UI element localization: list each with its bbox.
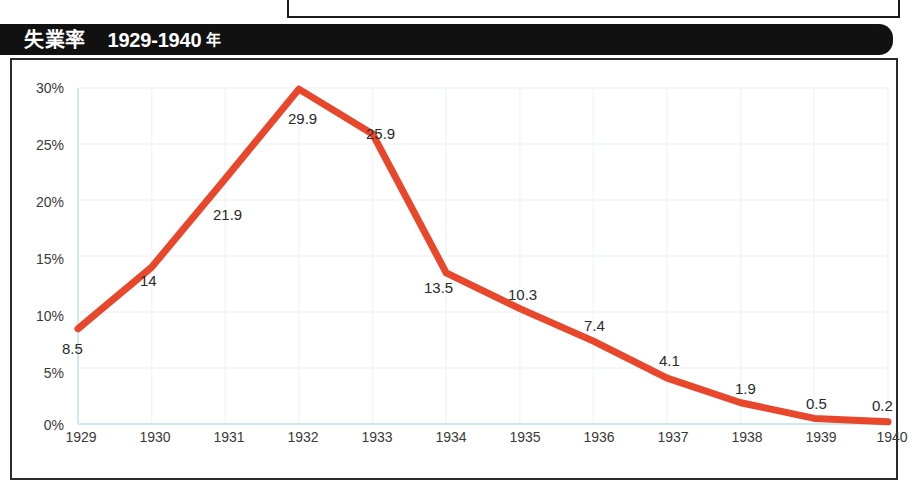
y-axis-tick-label: 20% <box>18 195 64 209</box>
x-axis-tick-label: 1940 <box>862 430 918 444</box>
x-axis-tick-label: 1938 <box>717 430 777 444</box>
x-axis-tick-label: 1937 <box>643 430 703 444</box>
x-axis-tick-label: 1934 <box>421 430 481 444</box>
data-point-label: 1.9 <box>735 381 756 396</box>
data-point-label: 0.2 <box>872 398 893 413</box>
y-axis-tick-label: 15% <box>18 252 64 266</box>
y-axis-tick-label: 25% <box>18 138 64 152</box>
chart-panel <box>10 58 898 480</box>
x-axis-tick-label: 1933 <box>347 430 407 444</box>
data-point-label: 4.1 <box>659 353 680 368</box>
y-axis-tick-label: 5% <box>18 366 64 380</box>
x-axis-tick-label: 1931 <box>199 430 259 444</box>
data-point-label: 8.5 <box>62 341 83 356</box>
data-point-label: 14 <box>140 273 157 288</box>
x-axis-tick-label: 1932 <box>273 430 333 444</box>
x-axis-tick-label: 1929 <box>51 430 111 444</box>
data-point-label: 21.9 <box>213 207 242 222</box>
title-year-range: 1929-1940 <box>108 30 202 50</box>
top-partial-frame <box>287 0 900 18</box>
data-point-label: 29.9 <box>288 111 317 126</box>
y-axis-tick-label: 30% <box>18 81 64 95</box>
title-year-suffix: 年 <box>206 32 221 47</box>
x-axis-tick-label: 1936 <box>569 430 629 444</box>
data-point-label: 7.4 <box>584 318 605 333</box>
data-point-label: 25.9 <box>366 126 395 141</box>
chart-title-bar: 失業率 1929-1940 年 <box>0 24 893 55</box>
x-axis-tick-label: 1939 <box>791 430 851 444</box>
page-title: 失業率 <box>24 30 86 50</box>
data-point-label: 0.5 <box>806 396 827 411</box>
data-point-label: 10.3 <box>508 287 537 302</box>
x-axis-tick-label: 1935 <box>495 430 555 444</box>
x-axis-tick-label: 1930 <box>125 430 185 444</box>
y-axis-tick-label: 10% <box>18 309 64 323</box>
data-point-label: 13.5 <box>424 280 453 295</box>
